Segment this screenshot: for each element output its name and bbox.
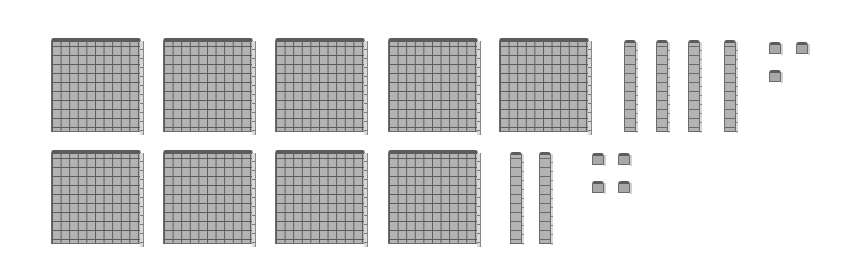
hundred-flat bbox=[163, 150, 253, 244]
hundred-flat bbox=[499, 38, 589, 132]
one-cube bbox=[769, 42, 781, 54]
hundred-flat bbox=[51, 150, 141, 244]
ten-rod bbox=[688, 40, 700, 132]
ten-rod bbox=[656, 40, 668, 132]
hundred-flat bbox=[275, 38, 365, 132]
ten-rod bbox=[539, 152, 551, 244]
hundred-flat bbox=[275, 150, 365, 244]
one-cube bbox=[769, 70, 781, 82]
ten-rod bbox=[624, 40, 636, 132]
one-cube bbox=[618, 181, 630, 193]
hundred-flat bbox=[163, 38, 253, 132]
one-cube bbox=[796, 42, 808, 54]
ten-rod bbox=[510, 152, 522, 244]
ten-rod bbox=[724, 40, 736, 132]
one-cube bbox=[592, 181, 604, 193]
one-cube bbox=[592, 153, 604, 165]
hundred-flat bbox=[388, 150, 478, 244]
hundred-flat bbox=[51, 38, 141, 132]
one-cube bbox=[618, 153, 630, 165]
hundred-flat bbox=[388, 38, 478, 132]
